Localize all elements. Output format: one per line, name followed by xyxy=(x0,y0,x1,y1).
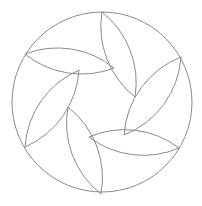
rosette-diagram xyxy=(0,0,202,206)
petal-3 xyxy=(89,130,179,156)
petal-2 xyxy=(124,57,181,135)
petal-5 xyxy=(25,70,79,147)
petal-1 xyxy=(101,12,136,97)
petal-4 xyxy=(67,107,103,194)
petal-group xyxy=(25,12,181,194)
petal-6 xyxy=(25,48,114,74)
